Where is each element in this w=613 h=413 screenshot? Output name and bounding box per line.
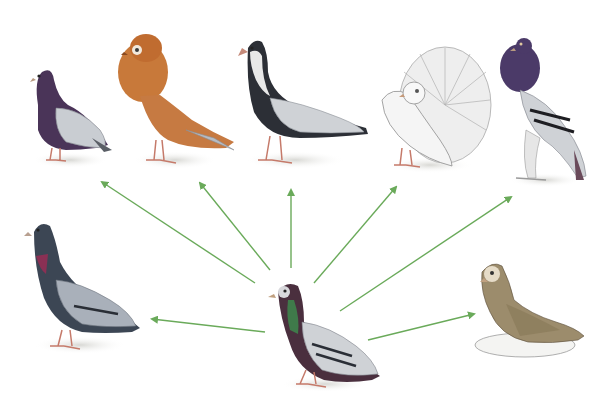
bird-frillback-brown: [475, 264, 584, 357]
bird-pouter-tall-purple: [500, 38, 586, 187]
bird-homing-pigeon: [24, 224, 140, 354]
pigeon-illustration: [0, 0, 613, 413]
bird-fantail-white: [382, 47, 491, 173]
bird-purple-pigeon: [30, 70, 112, 168]
arrow-6: [368, 314, 474, 340]
arrow-2: [200, 183, 270, 270]
bird-pouter-orange: [118, 34, 234, 169]
arrows-group: [102, 182, 511, 340]
scene-svg: [0, 0, 613, 413]
bird-rock-dove-ancestor: [268, 284, 380, 392]
arrow-4: [314, 187, 396, 283]
bird-magpie-pigeon: [238, 41, 368, 169]
arrow-1: [102, 182, 255, 283]
arrow-7: [152, 319, 265, 332]
